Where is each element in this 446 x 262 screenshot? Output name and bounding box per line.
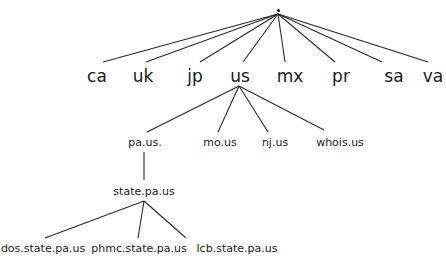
node-us: us	[230, 68, 250, 85]
node-whois-us: whois.us	[316, 137, 364, 148]
edge--mx	[278, 14, 285, 62]
edge--va	[278, 14, 428, 62]
node-mo-us: mo.us	[203, 137, 236, 148]
edge--us	[243, 14, 278, 62]
root-node-dot	[277, 9, 280, 12]
edge--sa	[278, 14, 382, 62]
edge-us-whoisus	[239, 86, 324, 130]
node-nj-us: nj.us	[262, 137, 288, 148]
edge-statepaus-lcbstatepaus	[144, 201, 186, 238]
edge-statepaus-dosstatepaus	[45, 201, 144, 238]
node-va: va	[423, 68, 443, 85]
node-state-pa-us: state.pa.us	[113, 186, 174, 197]
tree-edges	[0, 0, 446, 262]
edge--pr	[278, 14, 335, 62]
edge--ca	[103, 14, 278, 62]
node-pr: pr	[332, 68, 350, 85]
node-ca: ca	[87, 68, 107, 85]
edge-us-paus	[147, 86, 239, 132]
edge-us-mous	[218, 86, 239, 132]
node-mx: mx	[277, 68, 304, 85]
node-uk: uk	[133, 68, 154, 85]
node-pa-us: pa.us.	[128, 137, 161, 148]
node-jp: jp	[187, 68, 203, 85]
node-sa: sa	[384, 68, 403, 85]
node-lcb-state-pa-us: lcb.state.pa.us	[197, 243, 278, 254]
edge-statepaus-phmcstatepaus	[138, 201, 144, 238]
node-dos-state-pa-us: dos.state.pa.us	[1, 243, 85, 254]
node-phmc-state-pa-us: phmc.state.pa.us	[91, 243, 187, 254]
